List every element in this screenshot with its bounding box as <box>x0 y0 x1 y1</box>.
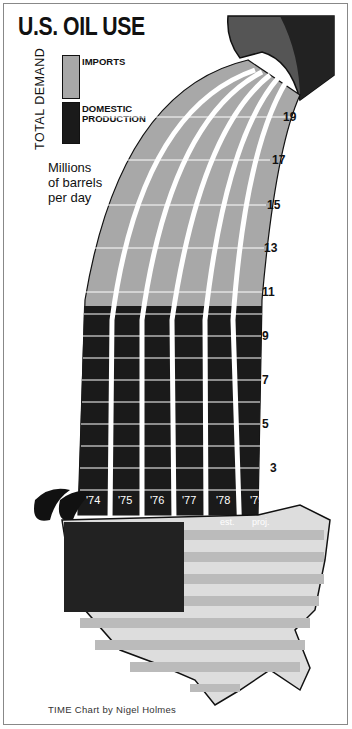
chart-credit: TIME Chart by Nigel Holmes <box>48 704 176 715</box>
year-label: '79 <box>250 494 264 506</box>
year-note: proj. <box>252 517 270 527</box>
year-label: '75 <box>118 494 132 506</box>
y-tick: 5 <box>262 417 269 431</box>
year-label: '74 <box>86 494 100 506</box>
y-tick: 19 <box>283 110 296 124</box>
y-tick: 3 <box>270 461 277 475</box>
year-note: est. <box>220 517 235 527</box>
year-label: '76 <box>150 494 164 506</box>
year-label: '77 <box>182 494 196 506</box>
y-tick: 9 <box>262 329 269 343</box>
chart-root: U.S. OIL USE TOTAL DEMAND IMPORTS DOMEST… <box>0 0 352 729</box>
y-tick: 11 <box>262 285 275 299</box>
year-label: '78 <box>216 494 230 506</box>
y-tick: 17 <box>272 153 285 167</box>
oil-stream-graphic <box>0 0 352 729</box>
y-tick: 13 <box>264 241 277 255</box>
y-tick: 7 <box>262 373 269 387</box>
y-tick: 15 <box>267 198 280 212</box>
